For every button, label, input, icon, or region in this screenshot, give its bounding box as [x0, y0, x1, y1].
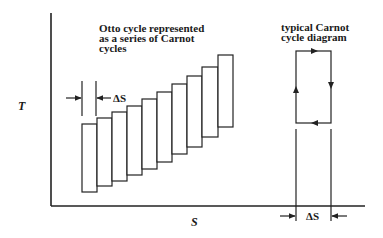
- otto-carnot-series: [82, 55, 233, 192]
- carnot-caption-line-2: cycle diagram: [281, 31, 347, 43]
- ts-diagram: T S Otto cycle represented as a series o…: [0, 0, 383, 238]
- otto-carnot-rectangle-5: [142, 99, 157, 169]
- otto-carnot-rectangle-3: [112, 112, 127, 181]
- otto-carnot-rectangle-10: [218, 55, 233, 127]
- otto-delta-s-label: ΔS: [113, 92, 126, 104]
- otto-carnot-rectangle-6: [157, 92, 172, 162]
- x-axis-label: S: [191, 215, 198, 229]
- y-axis-label: T: [18, 99, 26, 113]
- otto-carnot-rectangle-8: [187, 76, 202, 147]
- carnot-cycle-rectangle: [296, 51, 331, 123]
- otto-carnot-rectangle-1: [82, 124, 97, 192]
- otto-carnot-rectangle-7: [172, 84, 187, 154]
- otto-carnot-rectangle-2: [97, 118, 112, 186]
- carnot-delta-s-label: ΔS: [306, 210, 319, 222]
- otto-carnot-rectangle-4: [127, 106, 142, 175]
- otto-carnot-rectangle-9: [202, 67, 218, 137]
- otto-caption-line-3: cycles: [99, 42, 127, 54]
